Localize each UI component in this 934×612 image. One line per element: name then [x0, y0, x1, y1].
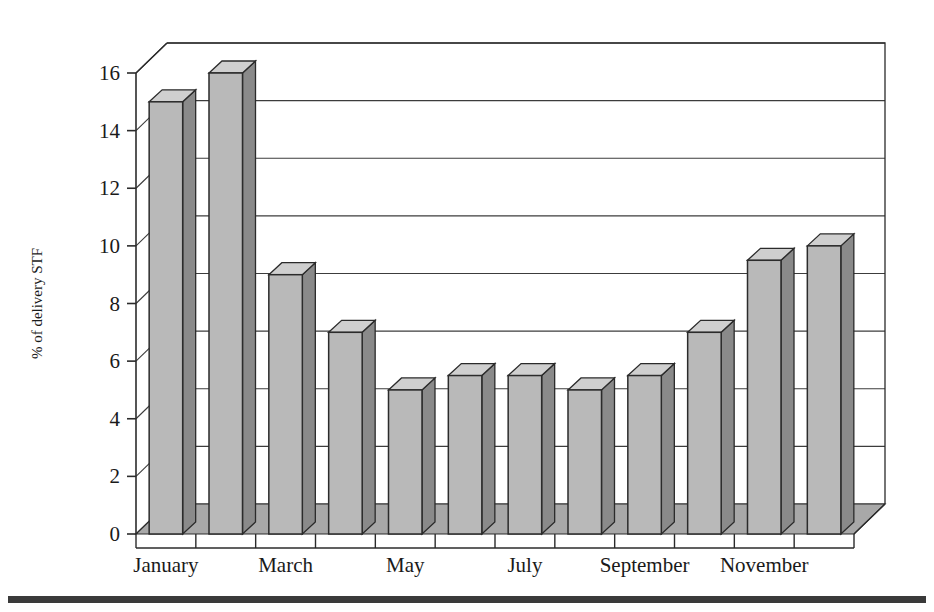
x-tick-label: May	[386, 553, 425, 577]
bar[interactable]	[747, 248, 794, 534]
bar[interactable]	[628, 364, 675, 534]
y-tick-label: 12	[99, 176, 120, 200]
bar[interactable]	[568, 378, 615, 534]
bar[interactable]	[209, 61, 256, 534]
figure-container: 0246810121416 JanuaryMarchMayJulySeptemb…	[0, 0, 934, 612]
x-tick-label: September	[600, 553, 690, 577]
bar[interactable]	[508, 364, 555, 534]
bar-side-face	[482, 364, 495, 534]
bar[interactable]	[448, 364, 495, 534]
bar-front-face	[329, 332, 363, 534]
bar[interactable]	[688, 320, 735, 534]
bar[interactable]	[149, 90, 196, 534]
bar-side-face	[243, 61, 256, 534]
bar-front-face	[508, 376, 542, 534]
bar-front-face	[807, 246, 841, 534]
bar-chart: 0246810121416 JanuaryMarchMayJulySeptemb…	[0, 0, 934, 612]
bar-side-face	[781, 248, 794, 534]
bar[interactable]	[388, 378, 435, 534]
bar-front-face	[747, 260, 781, 534]
y-tick-label: 16	[99, 61, 120, 85]
bar-front-face	[149, 102, 183, 534]
bar-side-face	[661, 364, 674, 534]
bar-side-face	[302, 263, 315, 534]
x-tick-label: November	[720, 553, 809, 577]
bar-side-face	[602, 378, 615, 534]
y-tick-label: 10	[99, 234, 120, 258]
bar[interactable]	[269, 263, 316, 534]
bar-front-face	[269, 275, 303, 534]
bar-side-face	[841, 234, 854, 534]
y-tick-label: 0	[110, 522, 121, 546]
bar-side-face	[422, 378, 435, 534]
x-tick-label: July	[507, 553, 543, 577]
y-axis-title: % of delivery STF	[29, 248, 45, 359]
x-tick-label: March	[258, 553, 313, 577]
bar[interactable]	[329, 320, 376, 534]
y-tick-label: 6	[110, 349, 121, 373]
x-tick-label: January	[133, 553, 199, 577]
y-tick-label: 4	[110, 407, 121, 431]
bar-front-face	[388, 390, 422, 534]
bar-front-face	[209, 73, 243, 534]
y-tick-label: 8	[110, 292, 121, 316]
bar-front-face	[688, 332, 722, 534]
footer-rule	[8, 596, 926, 603]
bar[interactable]	[807, 234, 854, 534]
bar-front-face	[568, 390, 602, 534]
bar-side-face	[721, 320, 734, 534]
y-tick-label: 14	[99, 119, 121, 143]
bar-side-face	[362, 320, 375, 534]
y-tick-label: 2	[110, 464, 121, 488]
bar-front-face	[628, 376, 662, 534]
bar-side-face	[542, 364, 555, 534]
bar-side-face	[183, 90, 196, 534]
y-axis-label: % of delivery STF	[29, 248, 45, 359]
bar-front-face	[448, 376, 482, 534]
